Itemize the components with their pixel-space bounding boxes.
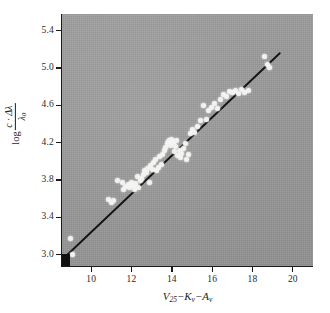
- figure-container: 3.03.43.84.24.65.05.4 101214161820 V25−K…: [0, 0, 330, 313]
- data-point: [218, 97, 223, 102]
- x-axis-title: V25−Kv−Av: [62, 290, 313, 304]
- data-point: [198, 118, 203, 123]
- x-axis-line: [61, 266, 313, 267]
- x-title-k: K: [184, 290, 191, 302]
- y-title-denominator: λ0: [16, 104, 28, 130]
- y-tick-label: 4.2: [26, 137, 54, 147]
- data-point: [224, 94, 229, 99]
- y-title-log: log: [10, 131, 21, 144]
- data-point: [262, 54, 267, 59]
- x-tick-mark: [131, 266, 132, 272]
- origin-square-marker: [62, 254, 70, 266]
- data-point: [186, 152, 191, 157]
- y-tick-label: 5.4: [26, 25, 54, 35]
- x-title-v-subscript: 25: [170, 295, 178, 304]
- data-point: [159, 162, 164, 167]
- data-point: [111, 198, 116, 203]
- y-tick-mark: [56, 105, 62, 106]
- x-tick-label: 14: [167, 274, 177, 284]
- y-tick-label: 5.0: [26, 62, 54, 72]
- data-point: [215, 106, 220, 111]
- x-tick-label: 16: [207, 274, 217, 284]
- data-point: [246, 88, 251, 93]
- y-tick-label: 3.0: [26, 249, 54, 259]
- y-tick-label: 3.8: [26, 174, 54, 184]
- x-tick-mark: [171, 266, 172, 272]
- data-point: [174, 138, 179, 143]
- x-tick-label: 12: [127, 274, 137, 284]
- x-tick-label: 20: [288, 274, 298, 284]
- x-tick-label: 18: [248, 274, 258, 284]
- data-point: [70, 252, 75, 257]
- data-point: [136, 185, 141, 190]
- data-point: [68, 236, 73, 241]
- x-tick-mark: [212, 266, 213, 272]
- data-point: [195, 124, 200, 129]
- data-point: [144, 170, 149, 175]
- y-title-numerator: c · Δλ: [4, 104, 16, 130]
- data-point-layer: [62, 14, 313, 266]
- data-point: [147, 180, 152, 185]
- y-tick-mark: [56, 217, 62, 218]
- data-point: [183, 141, 188, 146]
- y-tick-label: 3.4: [26, 211, 54, 221]
- data-point: [181, 146, 186, 151]
- x-tick-mark: [252, 266, 253, 272]
- y-tick-label: 4.6: [26, 99, 54, 109]
- data-point: [179, 151, 184, 156]
- y-axis-tick-labels: 3.03.43.84.24.65.05.4: [26, 0, 54, 313]
- data-point: [192, 130, 197, 135]
- x-title-v: V: [163, 290, 170, 302]
- y-tick-mark: [56, 179, 62, 180]
- x-tick-mark: [292, 266, 293, 272]
- x-title-a-subscript: v: [209, 295, 212, 304]
- data-point: [184, 157, 189, 162]
- x-tick-label: 10: [86, 274, 96, 284]
- data-point: [267, 65, 272, 70]
- y-tick-mark: [56, 254, 62, 255]
- plot-panel: [62, 14, 313, 266]
- data-point: [178, 155, 183, 160]
- y-title-fraction: c · Δλλ0: [4, 104, 28, 130]
- y-axis-title: logc · Δλλ0: [4, 64, 28, 184]
- x-tick-mark: [91, 266, 92, 272]
- y-tick-mark: [56, 30, 62, 31]
- y-tick-mark: [56, 67, 62, 68]
- data-point: [201, 103, 206, 108]
- y-tick-mark: [56, 142, 62, 143]
- x-title-a: A: [202, 290, 209, 302]
- y-axis-line: [61, 14, 62, 267]
- data-point: [204, 117, 209, 122]
